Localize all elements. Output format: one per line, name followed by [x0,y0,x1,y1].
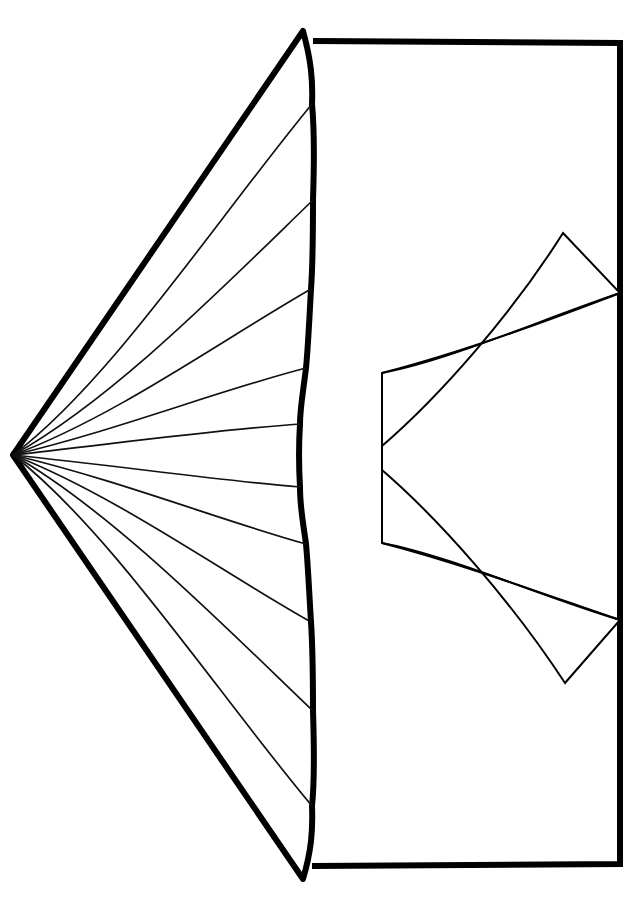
pattern-sheet-page: Chic & Shine Parasol Pattern [0,0,634,902]
pattern-artwork [0,0,634,902]
